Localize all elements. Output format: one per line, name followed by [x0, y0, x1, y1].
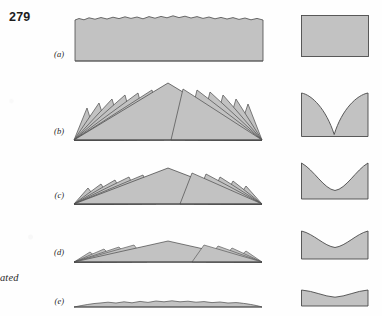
figure-row-d: (d) [0, 222, 382, 272]
landscape-profile-e [70, 286, 266, 312]
figure-row-a: (a) [0, 0, 382, 70]
panel-right-b [300, 91, 370, 138]
figure-row-e: (e) [0, 282, 382, 316]
row-label-d: (d) [42, 247, 64, 257]
landscape-profile-b [70, 78, 266, 144]
panel-right-a [300, 14, 370, 58]
figure-page: 279 lated (a) (b) [0, 0, 382, 316]
cross-section-a [300, 14, 370, 58]
row-label-b: (b) [42, 126, 64, 136]
cross-section-d [300, 229, 370, 261]
panel-left-b [70, 78, 266, 144]
panel-left-a [73, 8, 265, 63]
row-label-a: (a) [42, 49, 64, 59]
cross-section-b [300, 91, 370, 138]
cross-section-e [300, 288, 370, 308]
panel-left-e [70, 286, 266, 312]
panel-left-d [70, 226, 266, 266]
cross-section-c [300, 161, 370, 201]
landscape-profile-c [70, 156, 266, 208]
figure-row-c: (c) [0, 152, 382, 212]
landscape-profile-d [70, 226, 266, 266]
row-label-c: (c) [42, 190, 64, 200]
panel-right-e [300, 288, 370, 308]
panel-right-c [300, 161, 370, 201]
row-label-e: (e) [42, 296, 64, 306]
panel-right-d [300, 229, 370, 261]
landscape-profile-a [73, 8, 265, 63]
figure-row-b: (b) [0, 78, 382, 148]
panel-left-c [70, 156, 266, 208]
